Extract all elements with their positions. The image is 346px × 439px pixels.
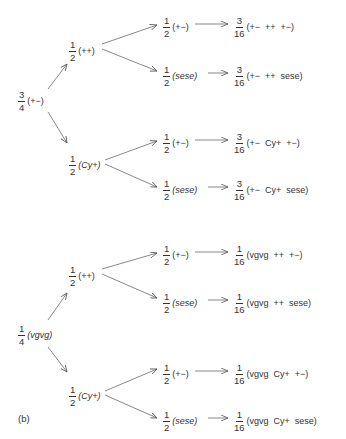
genotype-label: (vgvg ++ sese) (247, 299, 312, 308)
genotype-label: (+−) (172, 370, 189, 379)
denominator: 16 (234, 256, 245, 267)
result-node-a-1: 316 (+− ++ +−) (234, 16, 294, 38)
denominator: 16 (234, 304, 245, 315)
probability-fraction: 12 (163, 292, 170, 314)
genotype-label: (sese) (172, 417, 197, 426)
genotype-label: (+− Cy+ sese) (247, 186, 309, 195)
numerator: 3 (236, 179, 243, 191)
numerator: 1 (236, 292, 243, 304)
denominator: 2 (164, 191, 169, 202)
leaf-node-a-pp-pm: 12 (+−) (163, 16, 189, 38)
genotype-label: (vgvg ++ +−) (247, 251, 303, 260)
denominator: 16 (234, 191, 245, 202)
denominator: 16 (234, 77, 245, 88)
probability-fraction: 14 (18, 324, 25, 346)
leaf-node-b-cy-pm: 12 (+−) (163, 363, 189, 385)
genotype-label: (+−) (172, 251, 189, 260)
genotype-label: (Cy+) (78, 392, 100, 401)
numerator: 3 (236, 132, 243, 144)
genotype-label: (+− ++ sese) (247, 72, 303, 81)
probability-fraction: 12 (69, 385, 76, 407)
numerator: 1 (163, 410, 170, 422)
genotype-label: (Cy+) (78, 161, 100, 170)
probability-fraction: 12 (69, 40, 76, 62)
denominator: 2 (164, 256, 169, 267)
probability-fraction: 316 (234, 132, 245, 154)
denominator: 2 (164, 28, 169, 39)
denominator: 2 (70, 397, 75, 408)
denominator: 2 (70, 52, 75, 63)
genotype-label: (vgvg Cy+ sese) (247, 417, 317, 426)
result-node-a-3: 316 (+− Cy+ +−) (234, 132, 300, 154)
denominator: 2 (164, 77, 169, 88)
numerator: 1 (69, 154, 76, 166)
genotype-label: (vgvg Cy+ +−) (247, 370, 309, 379)
denominator: 2 (164, 375, 169, 386)
probability-fraction: 116 (234, 244, 245, 266)
probability-fraction: 116 (234, 363, 245, 385)
probability-fraction: 12 (69, 154, 76, 176)
genotype-label: (sese) (172, 186, 197, 195)
numerator: 1 (163, 363, 170, 375)
probability-fraction: 316 (234, 16, 245, 38)
probability-fraction: 12 (163, 65, 170, 87)
probability-fraction: 316 (234, 65, 245, 87)
probability-fraction: 116 (234, 292, 245, 314)
probability-fraction: 12 (163, 363, 170, 385)
probability-fraction: 116 (234, 410, 245, 432)
result-node-b-4: 116 (vgvg Cy+ sese) (234, 410, 317, 432)
genotype-label: (vgvg) (27, 331, 52, 340)
denominator: 4 (19, 336, 24, 347)
branch-node-b-cy: 12 (Cy+) (69, 385, 101, 407)
probability-fraction: 12 (163, 244, 170, 266)
numerator: 1 (18, 324, 25, 336)
branch-node-a-cy: 12 (Cy+) (69, 154, 101, 176)
probability-fraction: 12 (69, 265, 76, 287)
probability-fraction: 12 (163, 410, 170, 432)
numerator: 1 (69, 385, 76, 397)
numerator: 1 (236, 410, 243, 422)
genotype-label: (+−) (172, 23, 189, 32)
leaf-node-b-cy-sese: 12 (sese) (163, 410, 197, 432)
numerator: 1 (236, 244, 243, 256)
genotype-label: (sese) (172, 299, 197, 308)
numerator: 3 (236, 65, 243, 77)
denominator: 2 (70, 277, 75, 288)
genotype-label: (++) (78, 272, 95, 281)
numerator: 3 (18, 90, 25, 102)
numerator: 3 (236, 16, 243, 28)
denominator: 16 (234, 144, 245, 155)
numerator: 1 (236, 363, 243, 375)
numerator: 1 (163, 16, 170, 28)
numerator: 1 (163, 179, 170, 191)
panel-label-b: (b) (18, 413, 30, 424)
leaf-node-a-cy-sese: 12 (sese) (163, 179, 197, 201)
denominator: 4 (19, 102, 24, 113)
denominator: 2 (164, 144, 169, 155)
result-node-b-3: 116 (vgvg Cy+ +−) (234, 363, 308, 385)
branch-node-a-pp: 12 (++) (69, 40, 95, 62)
denominator: 16 (234, 28, 245, 39)
leaf-node-b-pp-pm: 12 (+−) (163, 244, 189, 266)
numerator: 1 (69, 265, 76, 277)
numerator: 1 (163, 132, 170, 144)
probability-fraction: 12 (163, 179, 170, 201)
probability-fraction: 34 (18, 90, 25, 112)
genotype-label: (+−) (27, 97, 44, 106)
genotype-label: (sese) (172, 72, 197, 81)
result-node-a-4: 316 (+− Cy+ sese) (234, 179, 308, 201)
numerator: 1 (163, 244, 170, 256)
probability-fraction: 12 (163, 132, 170, 154)
denominator: 2 (70, 166, 75, 177)
denominator: 16 (234, 375, 245, 386)
genotype-label: (++) (78, 47, 95, 56)
denominator: 2 (164, 304, 169, 315)
root-node-b: 14 (vgvg) (18, 324, 52, 346)
branch-node-b-pp: 12 (++) (69, 265, 95, 287)
leaf-node-b-pp-sese: 12 (sese) (163, 292, 197, 314)
root-node-a: 34 (+−) (18, 90, 44, 112)
denominator: 16 (234, 422, 245, 433)
genotype-label: (+− Cy+ +−) (247, 139, 300, 148)
probability-fraction: 12 (163, 16, 170, 38)
numerator: 1 (163, 292, 170, 304)
